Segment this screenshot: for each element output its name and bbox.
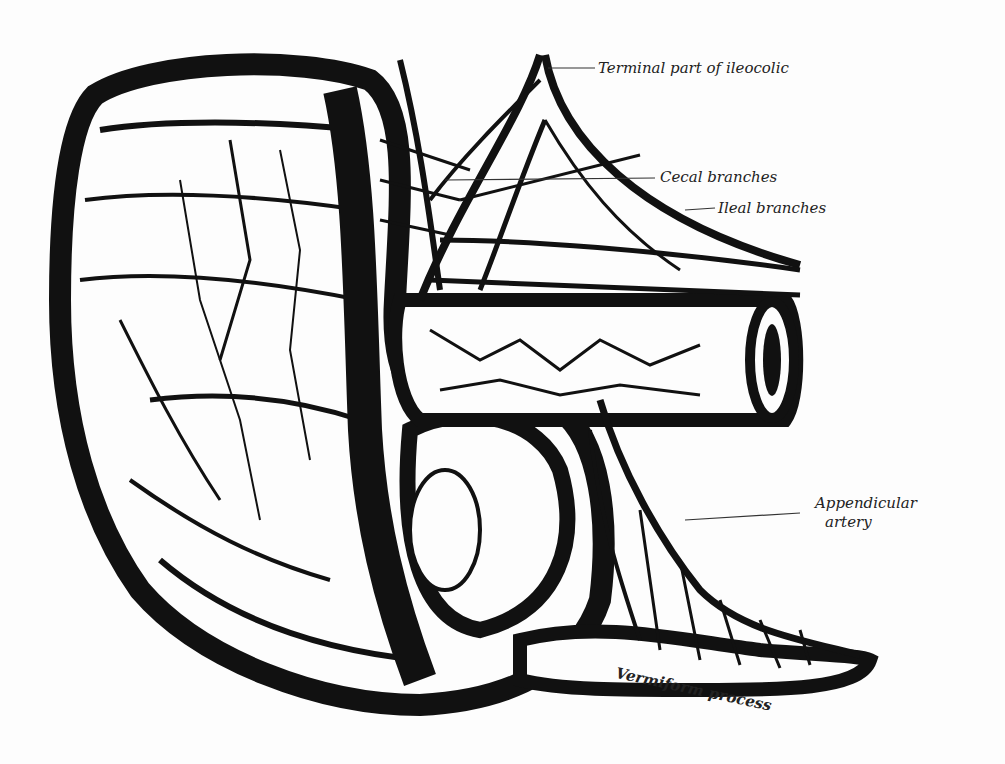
label-ileal-branches: Ileal branches [718, 199, 826, 217]
label-cecal-branches: Cecal branches [660, 168, 777, 186]
label-artery: artery [825, 513, 872, 531]
label-appendicular: Appendicular [815, 494, 917, 512]
anatomical-illustration [0, 0, 1005, 764]
ileum [395, 300, 796, 420]
label-terminal-ileocolic: Terminal part of ileocolic [598, 59, 789, 77]
inner-loop [408, 416, 568, 630]
